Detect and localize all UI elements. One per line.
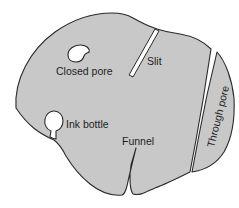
solid-particle-main	[16, 13, 211, 195]
ink-bottle-label: Ink bottle	[66, 118, 109, 130]
funnel-label: Funnel	[122, 135, 154, 147]
closed-pore-label: Closed pore	[56, 65, 113, 77]
pore-types-diagram: Closed pore Slit Ink bottle Funnel Throu…	[0, 0, 239, 208]
slit-label: Slit	[147, 55, 162, 67]
